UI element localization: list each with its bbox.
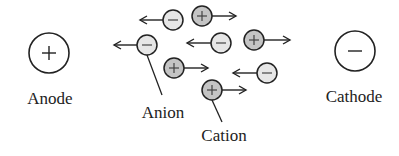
anion-leader <box>147 55 162 95</box>
cation-ion <box>192 6 236 26</box>
cation-ion <box>202 80 246 100</box>
cathode-electrode <box>335 31 375 71</box>
electrolysis-diagram: Anode Cathode Anion Cation <box>0 0 399 156</box>
anode-electrode <box>29 33 69 73</box>
anion-label: Anion <box>142 103 185 122</box>
cation-ion <box>244 30 290 50</box>
cation-leader <box>212 100 222 122</box>
cation-ion <box>164 58 208 78</box>
anode-label: Anode <box>27 89 72 108</box>
anion-ion <box>233 63 277 83</box>
anion-ion <box>187 33 231 53</box>
cathode-label: Cathode <box>326 87 383 106</box>
diagram-canvas: Anode Cathode Anion Cation <box>0 0 399 156</box>
anion-ion <box>140 10 183 30</box>
cation-label: Cation <box>201 126 247 145</box>
anion-ion <box>114 35 157 55</box>
